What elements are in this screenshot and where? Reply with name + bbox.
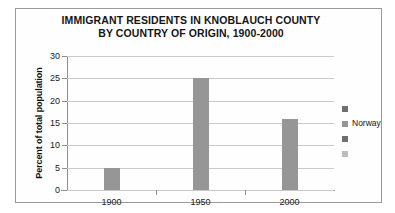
- x-tick-mark: [156, 190, 157, 195]
- y-tick-mark: [62, 168, 67, 169]
- y-tick-mark: [62, 78, 67, 79]
- y-tick-label: 30: [50, 51, 60, 61]
- bar[interactable]: [193, 78, 209, 190]
- y-tick-label: 15: [50, 118, 60, 128]
- y-tick-label: 20: [50, 96, 60, 106]
- x-tick-label: 1950: [190, 197, 210, 207]
- y-tick-label: 25: [50, 73, 60, 83]
- chart-legend: Norway: [342, 101, 395, 161]
- chart-title-line-1: IMMIGRANT RESIDENTS IN KNOBLAUCH COUNTY: [26, 14, 356, 27]
- legend-label: Norway: [352, 119, 381, 128]
- legend-item[interactable]: [342, 146, 395, 161]
- y-tick-mark: [62, 145, 67, 146]
- gridline: 30: [67, 56, 334, 57]
- y-tick-mark: [62, 123, 67, 124]
- y-tick-mark: [62, 56, 67, 57]
- legend-swatch: [342, 106, 348, 112]
- legend-item[interactable]: [342, 101, 395, 116]
- legend-swatch: [342, 136, 348, 142]
- legend-item[interactable]: Norway: [342, 116, 395, 131]
- y-tick-mark: [62, 101, 67, 102]
- y-tick-label: 10: [50, 140, 60, 150]
- x-tick-label: 2000: [279, 197, 299, 207]
- y-axis-title: Percent of total population: [32, 56, 46, 190]
- x-tick-label: 1900: [101, 197, 121, 207]
- y-tick-label: 0: [55, 185, 60, 195]
- chart-title: IMMIGRANT RESIDENTS IN KNOBLAUCH COUNTY …: [26, 14, 356, 40]
- legend-swatch: [342, 151, 348, 157]
- y-tick-mark: [62, 190, 67, 191]
- chart-title-line-2: BY COUNTRY OF ORIGIN, 1900-2000: [26, 27, 356, 40]
- gridline: 0: [67, 190, 334, 191]
- chart-container: IMMIGRANT RESIDENTS IN KNOBLAUCH COUNTY …: [15, 8, 382, 203]
- x-tick-mark: [245, 190, 246, 195]
- y-tick-label: 5: [55, 163, 60, 173]
- plot-area: 302520151050: [67, 56, 334, 190]
- legend-swatch: [342, 121, 348, 127]
- legend-item[interactable]: [342, 131, 395, 146]
- bar[interactable]: [104, 168, 120, 190]
- bar[interactable]: [282, 119, 298, 190]
- y-axis-title-label: Percent of total population: [34, 67, 44, 178]
